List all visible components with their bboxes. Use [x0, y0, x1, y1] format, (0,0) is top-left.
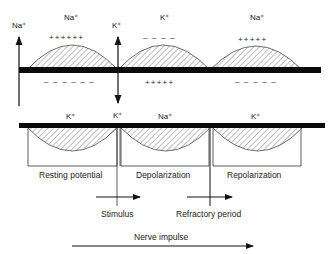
stimulus-group: Stimulus [96, 128, 140, 219]
ion-label: K⁺ [66, 112, 75, 121]
nerve-impulse-diagram: Na⁺ Na⁺ K⁺ K⁺ Na⁺ ++++++ – – – – +++++ –… [0, 0, 335, 254]
top-membrane-section: Na⁺ Na⁺ K⁺ K⁺ Na⁺ ++++++ – – – – +++++ –… [12, 13, 321, 106]
charge-negative: – – – – – [235, 77, 277, 86]
bottom-arc-right [212, 127, 303, 151]
bottom-arc-left [27, 127, 118, 151]
charge-positive: ++++++ [49, 33, 84, 42]
top-arc-right [210, 46, 302, 70]
charge-negative: – – – – – – [44, 77, 95, 86]
ion-label: K⁺ [251, 112, 260, 121]
ion-label: K⁺ [160, 13, 169, 22]
top-membrane [19, 67, 321, 73]
top-arc-middle [118, 45, 210, 70]
bottom-membrane-section: K⁺ K⁺ Na⁺ K⁺ Resting potential Depolariz… [19, 111, 325, 180]
refractory-label: Refractory period [176, 209, 241, 219]
ion-label: Na⁺ [12, 21, 26, 30]
ion-label: Na⁺ [250, 13, 264, 22]
bottom-membrane [19, 123, 325, 128]
nerve-impulse-group: Nerve impulse [72, 232, 253, 246]
region-label-repolarization: Repolarization [227, 170, 282, 180]
region-label-resting: Resting potential [39, 170, 102, 180]
bottom-arc-middle [120, 127, 211, 151]
charge-positive: +++++ [238, 35, 267, 44]
charge-positive: +++++ [145, 78, 174, 87]
ion-label: Na⁺ [64, 13, 78, 22]
ion-label: K⁺ [112, 21, 121, 30]
top-arc-left [27, 45, 118, 70]
ion-label: Na⁺ [158, 112, 172, 121]
region-label-depolarization: Depolarization [136, 170, 191, 180]
stimulus-label: Stimulus [101, 209, 134, 219]
charge-negative: – – – – [143, 33, 176, 42]
nerve-impulse-label: Nerve impulse [134, 232, 189, 242]
ion-label: K⁺ [113, 111, 122, 120]
